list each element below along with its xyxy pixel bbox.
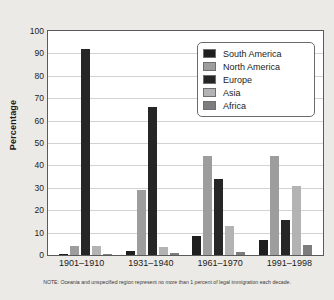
legend-item-label: Asia (223, 88, 241, 98)
bar (225, 226, 234, 255)
legend-item[interactable]: Africa (203, 99, 309, 112)
legend-swatch-icon (203, 49, 216, 58)
bar (170, 253, 179, 255)
bar (148, 107, 157, 255)
y-axis-tick-label: 70 (35, 93, 44, 103)
bar (70, 246, 79, 255)
bar (59, 254, 68, 255)
bar (236, 252, 245, 255)
bar (303, 245, 312, 255)
bar (281, 220, 290, 255)
bar (81, 49, 90, 255)
y-axis-tick-label: 90 (35, 48, 44, 58)
bar (192, 236, 201, 255)
bar (126, 251, 135, 255)
y-axis-tick-label: 30 (35, 183, 44, 193)
legend-item-label: South America (223, 49, 282, 59)
immigration-by-region-chart: Percentage 1009080706050403020100 South … (0, 0, 334, 300)
y-axis-title-text: Percentage (8, 100, 18, 151)
legend-item-label: Africa (223, 101, 246, 111)
bar-group (126, 31, 179, 255)
bar (92, 246, 101, 255)
bar (214, 179, 223, 255)
bar (137, 190, 146, 255)
legend-item-label: North America (223, 62, 280, 72)
y-axis-tick-label: 0 (39, 250, 44, 260)
bar (292, 186, 301, 255)
x-axis-tick-label: 1991–1998 (267, 258, 312, 268)
bar (103, 254, 112, 255)
bar (159, 247, 168, 255)
bar (203, 156, 212, 255)
legend-swatch-icon (203, 88, 216, 97)
legend-item[interactable]: North America (203, 60, 309, 73)
legend-swatch-icon (203, 101, 216, 110)
bar (270, 156, 279, 255)
bar (259, 240, 268, 255)
y-axis-tick-label: 100 (30, 26, 44, 36)
legend-item[interactable]: Europe (203, 73, 309, 86)
y-axis-tick-label: 50 (35, 138, 44, 148)
chart-footnote: NOTE: Oceania and unspecified region rep… (0, 279, 334, 285)
y-axis-tick-label: 60 (35, 116, 44, 126)
chart-legend: South AmericaNorth AmericaEuropeAsiaAfri… (197, 42, 315, 117)
bar-group (59, 31, 112, 255)
y-axis-tick-label: 80 (35, 71, 44, 81)
x-axis-tick-labels: 1901–19101931–19401961–19701991–1998 (47, 258, 324, 272)
legend-swatch-icon (203, 62, 216, 71)
legend-item-label: Europe (223, 75, 252, 85)
legend-item[interactable]: Asia (203, 86, 309, 99)
y-axis-tick-label: 20 (35, 205, 44, 215)
x-axis-tick-label: 1931–1940 (128, 258, 173, 268)
y-axis-tick-label: 40 (35, 160, 44, 170)
x-axis-tick-label: 1961–1970 (198, 258, 243, 268)
x-axis-tick-label: 1901–1910 (59, 258, 104, 268)
legend-item[interactable]: South America (203, 47, 309, 60)
y-axis-tick-labels: 1009080706050403020100 (18, 30, 44, 256)
y-axis-tick-label: 10 (35, 228, 44, 238)
legend-swatch-icon (203, 75, 216, 84)
